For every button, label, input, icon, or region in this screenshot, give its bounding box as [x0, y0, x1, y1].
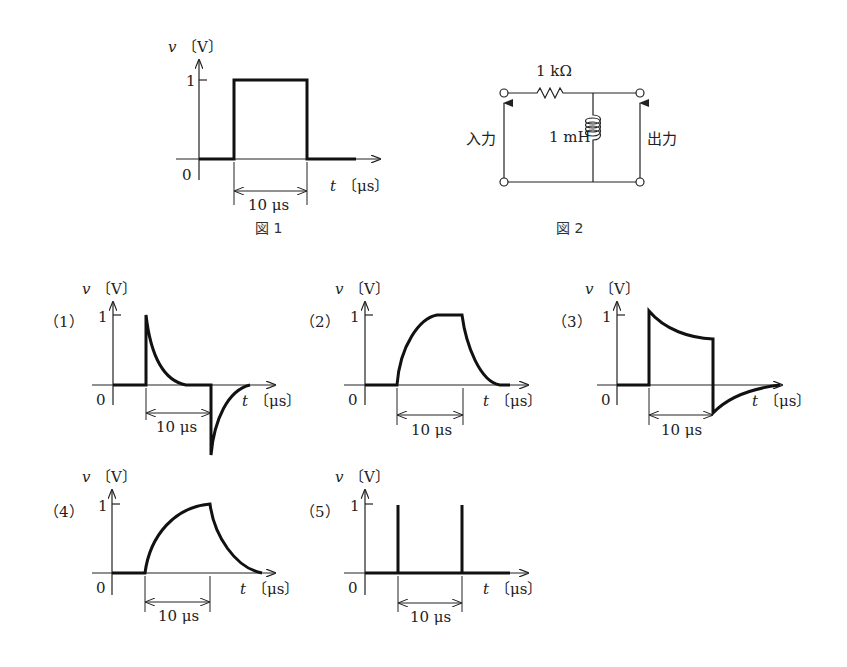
y-axis-var: v: [168, 38, 177, 56]
y-axis-var: v: [335, 280, 344, 298]
option-label: （2）: [300, 313, 340, 331]
option-1-graph: v 〔V〕 （1） 1 0 10 μs t 〔μs〕: [44, 280, 301, 455]
figure-2-circuit: 1 kΩ 1 mH 入力 出力 図 2: [466, 62, 677, 236]
y-tick-1: 1: [602, 308, 612, 326]
y-tick-1: 1: [186, 72, 196, 90]
waveform: [365, 505, 510, 573]
origin-label: 0: [96, 391, 106, 409]
option-2-graph: v 〔V〕 （2） 1 0 10 μs t 〔μs〕: [300, 280, 542, 439]
origin-label: 0: [601, 391, 611, 409]
x-axis-unit: 〔μs〕: [254, 392, 301, 410]
waveform: [365, 315, 510, 385]
y-axis-unit: 〔V〕: [182, 38, 223, 56]
y-axis-var: v: [585, 280, 594, 298]
y-tick-1: 1: [350, 497, 360, 515]
width-label: 10 μs: [661, 421, 702, 439]
output-terminal-top: [636, 89, 644, 97]
y-axis-var: v: [82, 468, 91, 486]
x-axis-unit: 〔μs〕: [764, 392, 811, 410]
option-label: （4）: [44, 503, 84, 521]
y-axis-unit: 〔V〕: [349, 280, 390, 298]
y-axis-unit: 〔V〕: [599, 280, 640, 298]
input-terminal-bottom: [500, 178, 508, 186]
option-label: （3）: [552, 313, 592, 331]
width-label: 10 μs: [411, 421, 452, 439]
x-axis-var: t: [242, 392, 249, 410]
width-label: 10 μs: [156, 418, 197, 436]
x-axis-var: t: [483, 580, 490, 598]
x-axis-var: t: [240, 580, 247, 598]
x-axis-unit: 〔μs〕: [495, 392, 542, 410]
option-5-graph: v 〔V〕 （5） 1 0 10 μs t 〔μs〕: [300, 468, 542, 626]
y-axis-unit: 〔V〕: [96, 280, 137, 298]
figure-2-caption: 図 2: [556, 220, 583, 236]
y-tick-1: 1: [350, 308, 360, 326]
option-3-graph: v 〔V〕 （3） 1 0 10 μs t 〔μs〕: [552, 280, 811, 439]
waveform: [112, 504, 262, 573]
option-label: （5）: [300, 503, 340, 521]
x-axis-unit: 〔μs〕: [495, 580, 542, 598]
x-axis-var: t: [752, 392, 759, 410]
y-axis-unit: 〔V〕: [349, 468, 390, 486]
output-label: 出力: [647, 130, 677, 148]
origin-label: 0: [348, 579, 358, 597]
y-axis-var: v: [82, 280, 91, 298]
option-4-graph: v 〔V〕 （4） 1 0 10 μs t 〔μs〕: [44, 468, 299, 625]
option-label: （1）: [44, 313, 84, 331]
origin-label: 0: [96, 579, 106, 597]
x-axis-var: t: [483, 392, 490, 410]
input-label: 入力: [466, 130, 496, 148]
origin-label: 0: [182, 166, 192, 184]
y-axis-unit: 〔V〕: [96, 468, 137, 486]
pulse-waveform: [199, 80, 356, 159]
resistor-label: 1 kΩ: [536, 62, 572, 80]
x-axis-unit: 〔μs〕: [342, 177, 389, 195]
input-terminal-top: [500, 89, 508, 97]
y-tick-1: 1: [98, 497, 108, 515]
figure-1-caption: 図 1: [255, 220, 282, 236]
width-label: 10 μs: [158, 607, 199, 625]
figure-1: v 〔V〕 1 0 10 μs t 〔μs〕 図 1: [168, 38, 389, 236]
resistor: [508, 88, 636, 98]
x-axis-var: t: [330, 177, 337, 195]
origin-label: 0: [348, 391, 358, 409]
width-label: 10 μs: [248, 196, 289, 214]
x-axis-unit: 〔μs〕: [252, 580, 299, 598]
width-label: 10 μs: [410, 608, 451, 626]
output-terminal-bottom: [636, 178, 644, 186]
y-tick-1: 1: [98, 308, 108, 326]
inductor-label: 1 mH: [549, 128, 591, 146]
y-axis-var: v: [335, 468, 344, 486]
